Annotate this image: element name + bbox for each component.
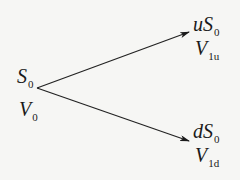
root-value-symbol: V (19, 98, 31, 120)
down-value-label: V1d (195, 145, 219, 168)
down-value-symbol: V (195, 144, 207, 166)
up-value-subscript: 1u (208, 50, 219, 62)
up-branch-arrow (37, 32, 189, 88)
root-price-symbol: S (17, 65, 27, 87)
down-branch-arrow (37, 88, 189, 141)
up-price-label: uS0 (193, 14, 220, 37)
up-value-symbol: V (195, 37, 207, 59)
down-price-label: dS0 (193, 121, 220, 144)
root-price-subscript: 0 (28, 78, 34, 90)
up-price-subscript: 0 (214, 26, 220, 38)
down-value-subscript: 1d (208, 157, 219, 169)
root-price-label: S0 (17, 66, 34, 89)
up-price-symbol: uS (193, 13, 213, 35)
down-price-symbol: dS (193, 120, 213, 142)
up-value-label: V1u (195, 38, 219, 61)
root-value-subscript: 0 (32, 111, 38, 123)
root-value-label: V0 (19, 99, 38, 122)
down-price-subscript: 0 (214, 133, 220, 145)
binomial-tree-diagram: S0 V0 uS0 V1u dS0 V1d (0, 0, 240, 180)
